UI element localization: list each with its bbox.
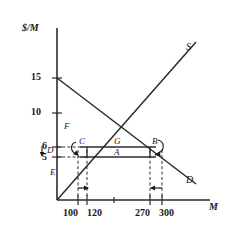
supply-curve-label: S [186,41,191,52]
y-tick-label-10: 10 [31,106,41,117]
supply-demand-figure: $/M M 15 10 6 5 100 120 270 300 S D F E … [0,0,235,233]
y-axis-label: $/M [22,22,39,33]
demand-curve-label: D [186,174,193,185]
region-label-f: F [64,121,70,131]
x-tick-label-120: 120 [87,207,102,218]
quantity-gap-arrows [78,186,162,191]
supply-curve [57,42,196,200]
region-label-e: E [50,167,56,177]
x-tick-label-100: 100 [63,207,78,218]
point-label-c: C [79,136,85,146]
region-label-a: A [114,147,120,157]
x-tick-label-270: 270 [135,207,150,218]
region-label-g: G [114,136,121,146]
x-axis-label: M [209,201,218,212]
point-label-b: B [152,136,158,146]
callout-arrow-c [72,142,80,156]
gap-label-d: D [47,145,54,155]
x-tick-label-300: 300 [159,207,174,218]
arrow-300-270-head [150,186,155,191]
y-tick-label-15: 15 [31,71,41,82]
